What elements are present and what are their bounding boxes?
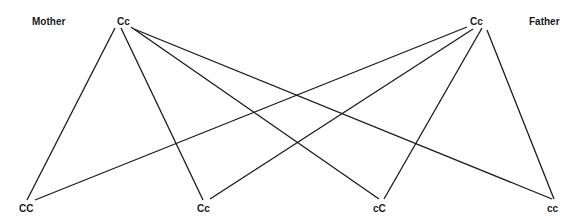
edge-father-cc [487, 30, 554, 199]
offspring-cc: cc [547, 203, 558, 215]
edge-father-cC [384, 28, 482, 199]
offspring-CC: CC [19, 203, 33, 215]
offspring-Cc: Cc [197, 203, 210, 215]
father-label: Father [529, 16, 560, 28]
edge-mother-CC [27, 28, 115, 200]
mother-label: Mother [32, 16, 65, 28]
offspring-cC: cC [373, 203, 386, 215]
mother-genotype: Cc [117, 16, 130, 28]
edge-father-CC [35, 27, 467, 200]
father-genotype: Cc [470, 16, 483, 28]
edge-mother-Cc [121, 28, 203, 200]
punnett-cross-diagram: Mother Cc Cc Father CC Cc cC cc [0, 0, 578, 221]
cross-lines [0, 0, 578, 221]
